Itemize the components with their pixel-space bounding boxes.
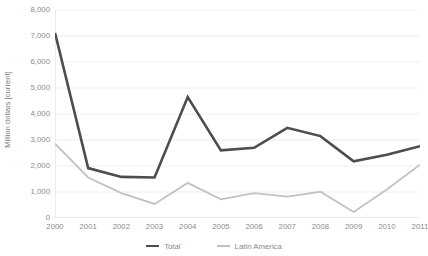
x-tick-label: 2003: [146, 222, 163, 232]
x-tick-label: 2008: [312, 222, 329, 232]
series-line-latin-america: [55, 144, 420, 212]
x-tick-label: 2004: [179, 222, 196, 232]
line-chart: Million dollars [current] 8,0007,0006,00…: [0, 0, 428, 256]
chart-legend: TotalLatin America: [0, 239, 428, 253]
plot-svg: [55, 10, 420, 218]
y-tick-label: 0: [12, 214, 50, 222]
series-line-total: [55, 33, 420, 178]
y-tick-label: 6,000: [12, 58, 50, 66]
x-tick-label: 2000: [46, 222, 63, 232]
x-tick-label: 2005: [212, 222, 229, 232]
y-tick-label: 1,000: [12, 188, 50, 196]
x-tick-label: 2007: [279, 222, 296, 232]
legend-swatch-icon: [217, 245, 230, 247]
y-tick-label: 4,000: [12, 110, 50, 118]
y-tick-label: 8,000: [12, 6, 50, 14]
legend-item-latin-america[interactable]: Latin America: [217, 242, 282, 251]
y-tick-label: 3,000: [12, 136, 50, 144]
y-tick-label: 5,000: [12, 84, 50, 92]
x-tick-label: 2001: [79, 222, 96, 232]
legend-item-total[interactable]: Total: [146, 242, 180, 251]
y-tick-label: 2,000: [12, 162, 50, 170]
x-tick-label: 2006: [245, 222, 262, 232]
y-axis-title-label: Million dollars [current]: [3, 71, 12, 147]
x-tick-label: 2011: [412, 222, 428, 232]
plot-area: [55, 10, 420, 218]
legend-label: Total: [164, 242, 180, 251]
y-axis-tick-labels: 8,0007,0006,0005,0004,0003,0002,0001,000…: [12, 0, 50, 230]
legend-swatch-icon: [146, 245, 159, 248]
x-tick-label: 2009: [345, 222, 362, 232]
series-lines: [55, 33, 420, 212]
x-tick-label: 2002: [113, 222, 130, 232]
legend-label: Latin America: [235, 242, 282, 251]
x-axis-tick-labels: 2000200120022003200420052006200720082009…: [55, 222, 420, 236]
y-tick-label: 7,000: [12, 32, 50, 40]
x-tick-label: 2010: [378, 222, 395, 232]
